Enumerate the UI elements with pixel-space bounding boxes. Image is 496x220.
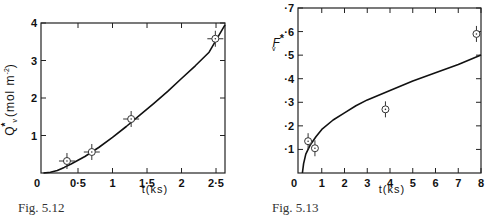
y-tick-label: ·7 [284, 2, 294, 14]
caption-fig-5-12: Fig. 5.12 [18, 200, 65, 216]
x-tick-label: 6 [432, 177, 438, 189]
chart-fig-5-13: 012345678·1·2·3·4·5·6·7t(ks)F*v [272, 2, 484, 195]
marker-center [66, 160, 68, 162]
chart-fig-5-12: 00·511·522·51234t(ks)Q*v(mol m-2) [0, 17, 225, 195]
y-axis-label: F*v [272, 32, 285, 52]
marker-center [215, 38, 217, 40]
x-tick-label: 0 [34, 177, 40, 189]
y-tick-label: ·5 [284, 49, 294, 61]
y-axis-label: Q*v(mol m-2) [0, 64, 18, 136]
y-tick-label: 1 [31, 130, 37, 142]
marker-center [385, 109, 387, 111]
y-tick-label: ·1 [284, 143, 294, 155]
data-point [305, 133, 312, 149]
model-curve [302, 55, 481, 173]
x-tick-label: 1 [319, 177, 325, 189]
y-tick-label: 3 [31, 55, 37, 67]
data-point [473, 26, 480, 42]
data-point [382, 101, 389, 117]
x-tick-label: 2·5 [208, 177, 224, 189]
x-tick-label: 7 [455, 177, 461, 189]
data-point [123, 111, 139, 127]
marker-center [130, 118, 132, 120]
y-tick-label: ·2 [284, 120, 294, 132]
x-tick-label: 2 [341, 177, 347, 189]
caption-fig-5-13: Fig. 5.13 [272, 200, 319, 216]
plot-frame [41, 23, 225, 173]
y-tick-label: 4 [31, 17, 38, 29]
x-tick-label: 0·5 [70, 177, 86, 189]
x-tick-label: 0 [291, 177, 297, 189]
x-tick-label: 1 [109, 177, 115, 189]
marker-center [476, 33, 478, 35]
marker-center [91, 151, 93, 153]
x-tick-label: 5 [410, 177, 416, 189]
data-point [84, 144, 100, 160]
y-tick-label: ·6 [284, 26, 294, 38]
x-axis-label: t(ks) [379, 183, 405, 195]
model-curve [44, 25, 226, 173]
y-tick-label: ·3 [284, 96, 294, 108]
x-axis-label: t(ks) [142, 183, 168, 195]
x-tick-label: 3 [364, 177, 370, 189]
x-tick-label: 2 [178, 177, 184, 189]
figures-canvas: 00·511·522·51234t(ks)Q*v(mol m-2) 012345… [0, 0, 496, 220]
data-point [59, 153, 75, 169]
marker-center [307, 140, 309, 142]
y-tick-label: ·4 [284, 73, 295, 85]
x-tick-label: 8 [478, 177, 484, 189]
y-tick-label: 2 [31, 92, 37, 104]
marker-center [314, 147, 316, 149]
